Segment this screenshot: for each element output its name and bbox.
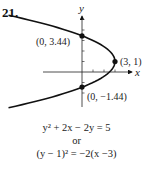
equation-vertex-form: (y − 1)² = −2(x −3) [0,148,153,159]
equation-or: or [0,135,153,146]
y-axis-label: y [78,2,84,14]
point-label: (0, 3.44) [36,36,70,48]
parabola-graph: x y (0, 3.44)(3, 1)(0, −1.44) [0,0,153,120]
point-label: (0, −1.44) [87,91,127,103]
point-label: (3, 1) [120,56,142,68]
data-point [112,59,117,64]
data-point [79,33,84,38]
equation-general: y² + 2x − 2y = 5 [0,122,153,133]
x-axis-label: x [134,66,140,78]
data-point [79,85,84,90]
